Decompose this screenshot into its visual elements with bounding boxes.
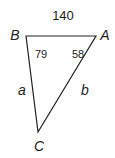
vertex-b-label: B (10, 27, 19, 43)
vertex-a-label: A (99, 27, 109, 43)
side-a-label: a (18, 82, 26, 98)
vertex-c-label: C (34, 138, 45, 154)
angle-a-value: 58 (72, 48, 84, 60)
triangle-diagram: 140 B A 79 58 a b C (0, 0, 115, 158)
side-ab-length: 140 (52, 8, 74, 23)
angle-b-value: 79 (35, 48, 47, 60)
side-b-label: b (81, 82, 89, 98)
